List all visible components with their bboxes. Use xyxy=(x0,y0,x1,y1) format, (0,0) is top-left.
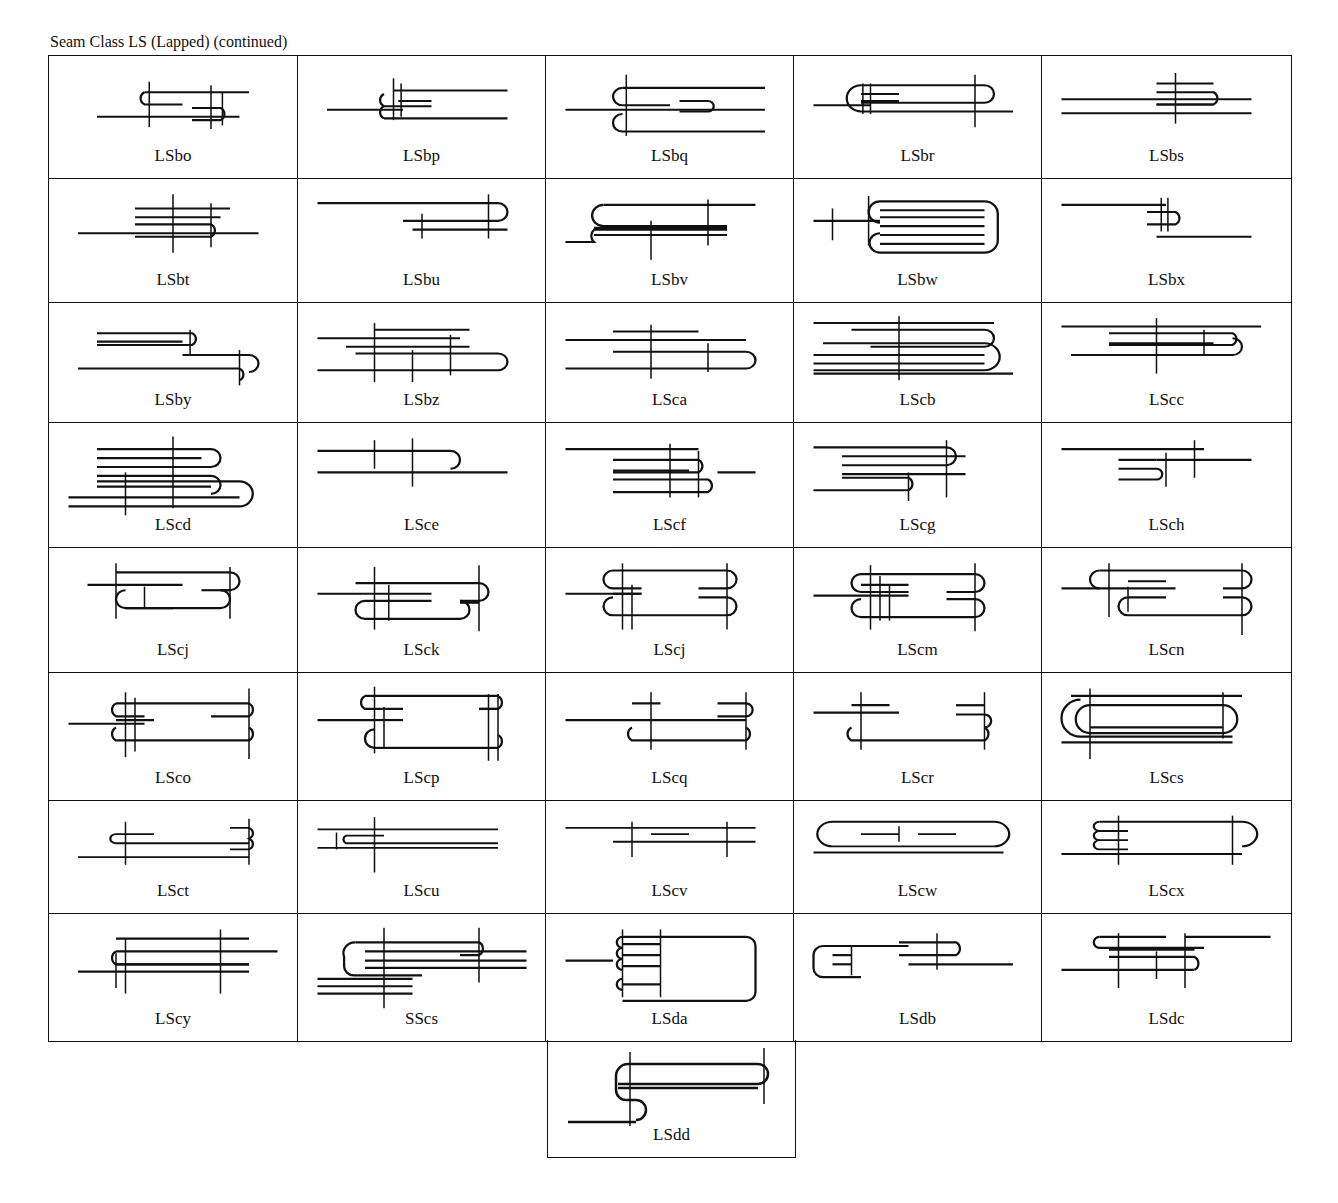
seam-diagram-icon xyxy=(59,189,287,273)
seam-diagram-icon xyxy=(1052,313,1280,393)
seam-diagram-icon xyxy=(804,558,1032,643)
seam-diagram-icon xyxy=(1052,433,1280,518)
seam-label: LScd xyxy=(155,515,191,535)
seam-diagram-icon xyxy=(308,313,536,393)
seam-label: LScn xyxy=(1149,640,1185,660)
seam-cell: LSdc xyxy=(1042,914,1291,1041)
seam-diagram-icon xyxy=(59,313,287,393)
seam-diagram-icon xyxy=(59,558,287,643)
seam-label: LSbs xyxy=(1149,146,1184,166)
seam-cell: LSda xyxy=(546,914,794,1041)
seam-cell: LSco xyxy=(49,673,298,801)
seam-cell: LScw xyxy=(794,801,1042,914)
seam-label: LScr xyxy=(901,768,934,788)
seam-label: LSch xyxy=(1149,515,1185,535)
seam-cell: LSbo xyxy=(49,56,298,179)
seam-diagram-icon xyxy=(804,683,1032,771)
seam-cell: LScn xyxy=(1042,548,1291,673)
seam-diagram-icon xyxy=(1052,66,1280,149)
seam-diagram-icon xyxy=(59,811,287,884)
seam-cell: LSby xyxy=(49,303,298,423)
seam-diagram-icon xyxy=(308,433,536,518)
seam-label: LSbx xyxy=(1148,270,1185,290)
seam-diagram-icon xyxy=(804,66,1032,149)
seam-label: LScv xyxy=(652,881,688,901)
seam-diagram-icon xyxy=(804,313,1032,393)
seam-table: LSboLSbpLSbqLSbrLSbsLSbtLSbuLSbvLSbwLSbx… xyxy=(48,55,1292,1042)
seam-diagram-icon xyxy=(59,683,287,771)
seam-label: LSdd xyxy=(653,1125,690,1145)
seam-cell: LScm xyxy=(794,548,1042,673)
seam-diagram-icon xyxy=(556,683,784,771)
seam-cell: LScj xyxy=(546,548,794,673)
seam-cell: LScp xyxy=(298,673,546,801)
seam-diagram-icon xyxy=(556,66,784,149)
page-title: Seam Class LS (Lapped) (continued) xyxy=(50,33,287,51)
seam-label: LSct xyxy=(157,881,189,901)
seam-label: LSdb xyxy=(899,1009,936,1029)
seam-diagram-icon xyxy=(59,433,287,518)
seam-label: LScb xyxy=(900,390,936,410)
seam-cell: LSbx xyxy=(1042,179,1291,303)
seam-cell: LSca xyxy=(546,303,794,423)
seam-cell: LScb xyxy=(794,303,1042,423)
seam-label: LScw xyxy=(898,881,938,901)
seam-diagram-icon xyxy=(804,433,1032,518)
seam-label: LSce xyxy=(404,515,439,535)
seam-cell: LScv xyxy=(546,801,794,914)
seam-diagram-icon xyxy=(308,683,536,771)
seam-cell: LScy xyxy=(49,914,298,1041)
seam-label: LSbz xyxy=(404,390,440,410)
seam-label: LSby xyxy=(155,390,192,410)
seam-diagram-icon xyxy=(308,924,536,1011)
seam-label: LSbq xyxy=(651,146,688,166)
seam-diagram-icon xyxy=(308,66,536,149)
seam-diagram-icon xyxy=(556,924,784,1011)
seam-cell: LScc xyxy=(1042,303,1291,423)
seam-label: LScy xyxy=(155,1009,191,1029)
seam-label: LSdc xyxy=(1149,1009,1185,1029)
seam-label: LSbt xyxy=(156,270,189,290)
seam-label: LScj xyxy=(653,640,685,660)
seam-cell: LSbz xyxy=(298,303,546,423)
seam-cell: LSbr xyxy=(794,56,1042,179)
seam-cell: LScg xyxy=(794,423,1042,548)
seam-label: LSbo xyxy=(155,146,192,166)
seam-diagram-icon xyxy=(1052,683,1280,771)
seam-label: LSbu xyxy=(403,270,440,290)
seam-cell: LSdb xyxy=(794,914,1042,1041)
seam-diagram-icon xyxy=(1052,924,1280,1011)
seam-diagram-icon xyxy=(558,1046,786,1126)
seam-cell: LSbu xyxy=(298,179,546,303)
seam-label: LScs xyxy=(1150,768,1184,788)
seam-cell: LSch xyxy=(1042,423,1291,548)
seam-diagram-icon xyxy=(1052,189,1280,273)
seam-diagram-icon xyxy=(804,189,1032,273)
seam-label: LSck xyxy=(404,640,440,660)
seam-cell: LSbp xyxy=(298,56,546,179)
seam-cell: LSbs xyxy=(1042,56,1291,179)
seam-cell: LScs xyxy=(1042,673,1291,801)
seam-diagram-icon xyxy=(59,66,287,149)
seam-label: LScp xyxy=(404,768,440,788)
seam-cell: SScs xyxy=(298,914,546,1041)
seam-diagram-icon xyxy=(308,811,536,884)
seam-diagram-icon xyxy=(1052,558,1280,643)
seam-label: LScq xyxy=(652,768,688,788)
seam-label: LScu xyxy=(404,881,440,901)
seam-cell: LScj xyxy=(49,548,298,673)
seam-cell: LScu xyxy=(298,801,546,914)
seam-cell: LScq xyxy=(546,673,794,801)
seam-cell: LSbv xyxy=(546,179,794,303)
seam-diagram-icon xyxy=(804,924,1032,1011)
seam-cell: LScx xyxy=(1042,801,1291,914)
seam-diagram-icon xyxy=(59,924,287,1011)
seam-diagram-icon xyxy=(556,433,784,518)
seam-cell: LSce xyxy=(298,423,546,548)
seam-cell: LSck xyxy=(298,548,546,673)
seam-label: LScx xyxy=(1149,881,1185,901)
seam-diagram-icon xyxy=(804,811,1032,884)
seam-cell: LSct xyxy=(49,801,298,914)
seam-diagram-icon xyxy=(1052,811,1280,884)
seam-label: LScj xyxy=(157,640,189,660)
